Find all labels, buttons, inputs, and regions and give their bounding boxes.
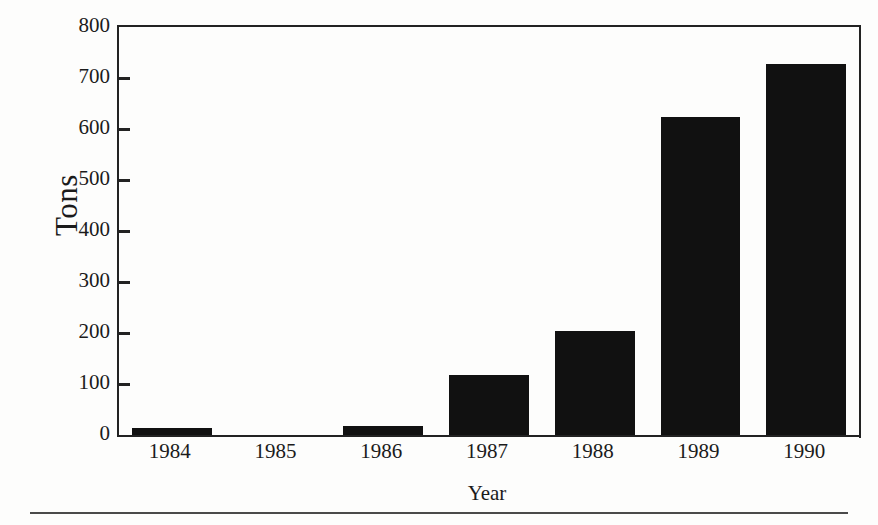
y-axis-tick-label: 600: [46, 117, 110, 138]
x-axis-tick-label: 1985: [223, 441, 329, 462]
y-axis-tick-label: 0: [46, 423, 110, 444]
x-axis-tick-label: 1987: [434, 441, 540, 462]
y-axis-tick-label: 700: [46, 66, 110, 87]
x-axis-tick-label: 1989: [646, 441, 752, 462]
x-axis-tick-labels: 1984198519861987198819891990: [117, 441, 857, 471]
plot-area: [117, 25, 859, 437]
bar: [449, 375, 529, 435]
bar: [766, 64, 846, 435]
x-axis-title: Year: [117, 481, 857, 506]
bar: [132, 428, 212, 435]
bar-chart-figure: Tons 0100200300400500600700800 198419851…: [0, 0, 878, 525]
x-axis-tick-label: 1984: [117, 441, 223, 462]
y-axis-tick-label: 200: [46, 321, 110, 342]
bottom-horizontal-rule: [30, 512, 848, 514]
bar: [343, 426, 423, 435]
bar-series: [119, 27, 859, 435]
x-axis-tick-label: 1988: [540, 441, 646, 462]
x-axis-tick-label: 1990: [751, 441, 857, 462]
x-axis-tick-label: 1986: [328, 441, 434, 462]
plot-frame-right-edge: [859, 25, 861, 438]
y-axis-tick-labels: 0100200300400500600700800: [46, 25, 110, 433]
y-axis-tick-label: 400: [46, 219, 110, 240]
y-axis-tick-label: 500: [46, 168, 110, 189]
bar: [661, 117, 741, 435]
y-axis-tick-label: 300: [46, 270, 110, 291]
y-axis-tick-label: 800: [46, 15, 110, 36]
bar: [555, 331, 635, 435]
y-axis-tick-label: 100: [46, 372, 110, 393]
